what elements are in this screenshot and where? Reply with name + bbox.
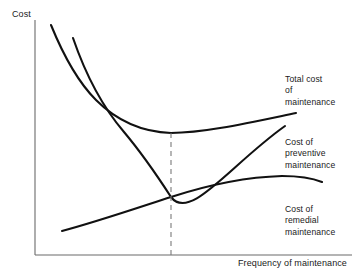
series-label-preventive-cost: Cost of preventive maintenance [285,137,335,171]
curve-total-cost [51,25,296,133]
series-label-remedial-cost: Cost of remedial maintenance [285,204,335,238]
curve-remedial-cost-main [62,176,282,231]
cost-vs-frequency-chart: Cost Frequency of maintenance Total cost… [0,0,359,273]
x-axis-label: Frequency of maintenance [238,258,347,269]
y-axis-label: Cost [12,9,31,20]
curve-remedial-cost-tail [282,176,322,182]
series-label-total-cost: Total cost of maintenance [285,74,335,108]
